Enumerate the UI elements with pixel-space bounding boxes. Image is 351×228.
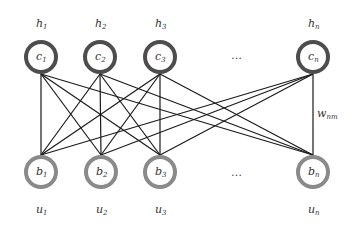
bipartite-network-diagram: c1c2c3cnb1b2b3bn h1h2h3hnu1u2u3un … … wn… bbox=[0, 0, 351, 228]
top-node-cn: cn bbox=[298, 42, 328, 72]
bottom-caption-u1: u1 bbox=[36, 203, 48, 217]
edge-weight-sub: nm bbox=[326, 113, 338, 121]
bottom-node-b2: b2 bbox=[86, 157, 116, 187]
top-caption-h3: h3 bbox=[155, 17, 167, 31]
bottom-ellipsis: … bbox=[231, 166, 242, 179]
bottom-node-b1: b1 bbox=[26, 157, 56, 187]
top-node-c3: c3 bbox=[145, 42, 175, 72]
top-caption-h2: h2 bbox=[95, 17, 107, 31]
bottom-caption-u2: u2 bbox=[96, 203, 108, 217]
bottom-caption-u3: u3 bbox=[155, 203, 167, 217]
top-ellipsis: … bbox=[231, 49, 242, 62]
bottom-caption-un: un bbox=[308, 203, 320, 217]
top-caption-h1: h1 bbox=[36, 17, 48, 31]
edge-weight-label: wnm bbox=[317, 107, 338, 121]
labels: h1h2h3hnu1u2u3un bbox=[36, 17, 320, 217]
top-node-c1: c1 bbox=[26, 42, 56, 72]
edges bbox=[41, 74, 313, 155]
top-caption-hn: hn bbox=[308, 17, 320, 31]
top-node-c2: c2 bbox=[85, 42, 115, 72]
bottom-node-b3: b3 bbox=[145, 157, 175, 187]
bottom-node-bn: bn bbox=[298, 157, 328, 187]
